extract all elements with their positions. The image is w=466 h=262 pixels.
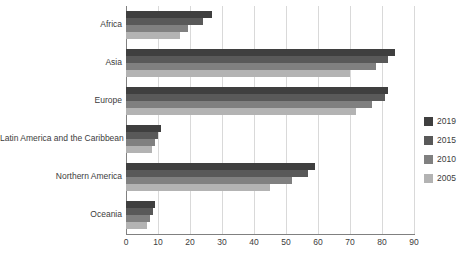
x-tick-label: 80 (377, 238, 386, 247)
gridline-20 (190, 6, 191, 234)
x-tick-label: 30 (217, 238, 226, 247)
x-tick-label: 20 (185, 238, 194, 247)
bar-fill (126, 146, 152, 153)
x-tick-label: 10 (153, 238, 162, 247)
x-axis-line (126, 234, 415, 235)
category-label: Europe (0, 96, 122, 105)
legend: 2019201520102005 (424, 112, 466, 188)
legend-label: 2010 (437, 155, 456, 164)
bar-fill (126, 32, 180, 39)
gridline-60 (318, 6, 319, 234)
bar (126, 87, 388, 94)
bar (126, 184, 270, 191)
category-label: Oceania (0, 210, 122, 219)
legend-item[interactable]: 2010 (424, 150, 466, 169)
bar (126, 32, 180, 39)
legend-swatch-icon (424, 136, 433, 145)
gridline-50 (286, 6, 287, 234)
bar (126, 108, 356, 115)
gridline-0 (126, 6, 127, 234)
bar (126, 70, 350, 77)
bar-fill (126, 18, 203, 25)
bar-fill (126, 163, 315, 170)
bar-chart: AfricaAsiaEuropeLatin America and the Ca… (0, 0, 466, 262)
bar (126, 215, 150, 222)
bar-fill (126, 94, 385, 101)
bar (126, 163, 315, 170)
bar (126, 63, 376, 70)
bar-group (126, 11, 414, 39)
x-tick-label: 50 (281, 238, 290, 247)
gridline-70 (350, 6, 351, 234)
category-label: Northern America (0, 172, 122, 181)
bar (126, 125, 161, 132)
bar-fill (126, 11, 212, 18)
gridline-40 (254, 6, 255, 234)
bar-fill (126, 56, 388, 63)
bar-fill (126, 70, 350, 77)
bar (126, 201, 155, 208)
legend-label: 2005 (437, 174, 456, 183)
bar-fill (126, 170, 308, 177)
bar (126, 177, 292, 184)
bar-fill (126, 125, 161, 132)
bar (126, 101, 372, 108)
bar-fill (126, 177, 292, 184)
bar-fill (126, 108, 356, 115)
bar-fill (126, 184, 270, 191)
bar-fill (126, 132, 158, 139)
bar (126, 222, 147, 229)
legend-label: 2015 (437, 136, 456, 145)
legend-item[interactable]: 2005 (424, 169, 466, 188)
bar (126, 18, 203, 25)
bar-group (126, 125, 414, 153)
bar-group (126, 87, 414, 115)
bar-fill (126, 87, 388, 94)
bar-fill (126, 139, 155, 146)
x-tick-label: 90 (409, 238, 418, 247)
category-label: Latin America and the Caribbean (0, 134, 122, 143)
gridline-10 (158, 6, 159, 234)
legend-item[interactable]: 2019 (424, 112, 466, 131)
bar-fill (126, 49, 395, 56)
bar-fill (126, 201, 155, 208)
category-label: Asia (0, 58, 122, 67)
gridlines (126, 6, 414, 234)
bar (126, 132, 158, 139)
bar-group (126, 49, 414, 77)
legend-label: 2019 (437, 117, 456, 126)
legend-swatch-icon (424, 117, 433, 126)
gridline-30 (222, 6, 223, 234)
bar (126, 208, 153, 215)
category-axis-labels: AfricaAsiaEuropeLatin America and the Ca… (0, 6, 122, 234)
bar-group (126, 163, 414, 191)
bar (126, 146, 152, 153)
x-tick-label: 0 (124, 238, 129, 247)
x-axis-tick-labels: 0102030405060708090 (126, 238, 414, 252)
bar (126, 11, 212, 18)
bar-fill (126, 222, 147, 229)
x-tick-label: 40 (249, 238, 258, 247)
bar (126, 56, 388, 63)
legend-swatch-icon (424, 174, 433, 183)
bar (126, 49, 395, 56)
bar-fill (126, 101, 372, 108)
bar-group (126, 201, 414, 229)
bar (126, 139, 155, 146)
bar (126, 94, 385, 101)
x-tick-label: 70 (345, 238, 354, 247)
bar (126, 25, 188, 32)
category-label: Africa (0, 20, 122, 29)
gridline-90 (414, 6, 415, 234)
bar (126, 170, 308, 177)
bar-fill (126, 63, 376, 70)
bar-fill (126, 215, 150, 222)
x-tick-label: 60 (313, 238, 322, 247)
legend-swatch-icon (424, 155, 433, 164)
bar-fill (126, 25, 188, 32)
plot-area (126, 6, 414, 234)
gridline-80 (382, 6, 383, 234)
legend-item[interactable]: 2015 (424, 131, 466, 150)
bar-fill (126, 208, 153, 215)
